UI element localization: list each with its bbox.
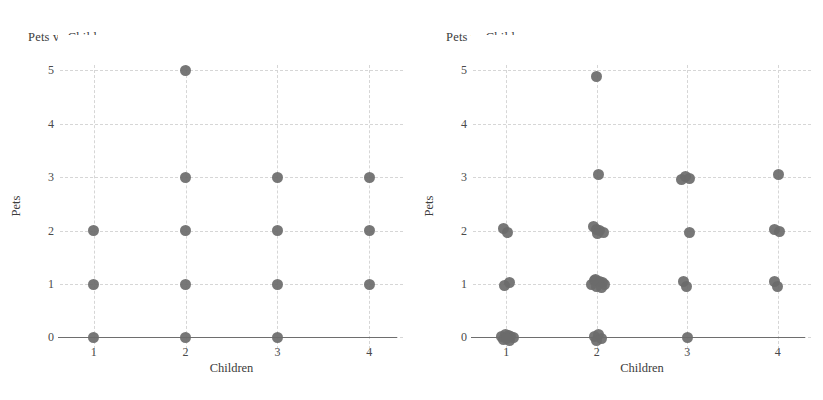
- x-axis-line-left: [58, 337, 397, 338]
- scatter-point: [684, 227, 695, 238]
- scatter-point: [593, 169, 604, 180]
- y-tick-label-2-left: 2: [32, 223, 54, 238]
- y-tick-label-4-left: 4: [32, 116, 54, 131]
- x-tick-label-4-left: 4: [357, 345, 381, 360]
- scatter-point: [272, 172, 283, 183]
- chart-panel-left: Pets vs Children Pets Children 012345123…: [0, 0, 411, 400]
- gridline-y-3-left: [60, 177, 403, 178]
- gridline-x-3-left: [277, 65, 278, 354]
- top-clip-mask-left: [58, 35, 405, 65]
- scatter-point: [592, 228, 603, 239]
- scatter-point: [180, 332, 191, 343]
- scatter-point: [682, 332, 693, 343]
- gridline-x-4-left: [369, 65, 370, 354]
- x-tick-label-2-right: 2: [585, 345, 609, 360]
- scatter-point: [364, 279, 375, 290]
- scatter-point: [774, 226, 785, 237]
- gridline-y-3-right: [473, 177, 811, 178]
- x-axis-title-left: Children: [210, 361, 254, 376]
- gridline-x-2-right: [597, 65, 598, 354]
- scatter-point: [684, 173, 695, 184]
- gridline-y-1-left: [60, 284, 403, 285]
- gridline-x-1-left: [94, 65, 95, 354]
- scatter-point: [504, 277, 515, 288]
- gridline-y-4-left: [60, 124, 403, 125]
- scatter-point: [591, 335, 602, 346]
- figure-canvas: Pets vs Children Pets Children 012345123…: [0, 0, 823, 400]
- y-tick-label-1-left: 1: [32, 277, 54, 292]
- y-tick-label-2-right: 2: [445, 223, 467, 238]
- gridline-x-3-right: [687, 65, 688, 354]
- x-tick-label-2-left: 2: [174, 345, 198, 360]
- scatter-point: [180, 65, 191, 76]
- scatter-point: [364, 225, 375, 236]
- scatter-point: [88, 225, 99, 236]
- scatter-point: [773, 169, 784, 180]
- x-tick-label-3-right: 3: [675, 345, 699, 360]
- gridline-x-2-left: [186, 65, 187, 354]
- scatter-point: [272, 279, 283, 290]
- gridline-y-1-right: [473, 284, 811, 285]
- scatter-point: [501, 333, 512, 344]
- scatter-point: [88, 279, 99, 290]
- scatter-point: [272, 332, 283, 343]
- y-tick-label-3-left: 3: [32, 170, 54, 185]
- gridline-x-1-right: [506, 65, 507, 354]
- x-tick-label-1-right: 1: [494, 345, 518, 360]
- y-axis-title-right: Pets: [422, 195, 437, 216]
- x-tick-label-3-left: 3: [265, 345, 289, 360]
- gridline-y-5-right: [473, 70, 811, 71]
- scatter-point: [364, 172, 375, 183]
- y-tick-label-3-right: 3: [445, 170, 467, 185]
- scatter-point: [180, 172, 191, 183]
- scatter-point: [772, 281, 783, 292]
- gridline-y-5-left: [60, 70, 403, 71]
- top-clip-mask-right: [471, 35, 813, 65]
- scatter-point: [180, 279, 191, 290]
- x-tick-label-4-right: 4: [766, 345, 790, 360]
- y-tick-label-0-left: 0: [32, 330, 54, 345]
- y-axis-title-left: Pets: [9, 195, 24, 216]
- scatter-point: [272, 225, 283, 236]
- x-axis-line-right: [471, 337, 805, 338]
- scatter-point: [596, 282, 607, 293]
- gridline-x-4-right: [778, 65, 779, 354]
- x-axis-title-right: Children: [620, 361, 664, 376]
- gridline-y-2-right: [473, 231, 811, 232]
- plot-area-right: Pets Children 0123451234: [481, 65, 803, 346]
- scatter-point: [591, 71, 602, 82]
- y-tick-label-0-right: 0: [445, 330, 467, 345]
- scatter-point: [180, 225, 191, 236]
- chart-panel-right: Pets vs Children Pets Children 012345123…: [412, 0, 823, 400]
- plot-area-left: Pets Children 0123451234: [68, 65, 395, 346]
- y-tick-label-5-left: 5: [32, 63, 54, 78]
- y-tick-label-1-right: 1: [445, 277, 467, 292]
- y-tick-label-4-right: 4: [445, 116, 467, 131]
- y-tick-label-5-right: 5: [445, 63, 467, 78]
- gridline-y-2-left: [60, 231, 403, 232]
- gridline-y-4-right: [473, 124, 811, 125]
- scatter-point: [88, 332, 99, 343]
- scatter-point: [502, 227, 513, 238]
- x-tick-label-1-left: 1: [82, 345, 106, 360]
- scatter-point: [681, 281, 692, 292]
